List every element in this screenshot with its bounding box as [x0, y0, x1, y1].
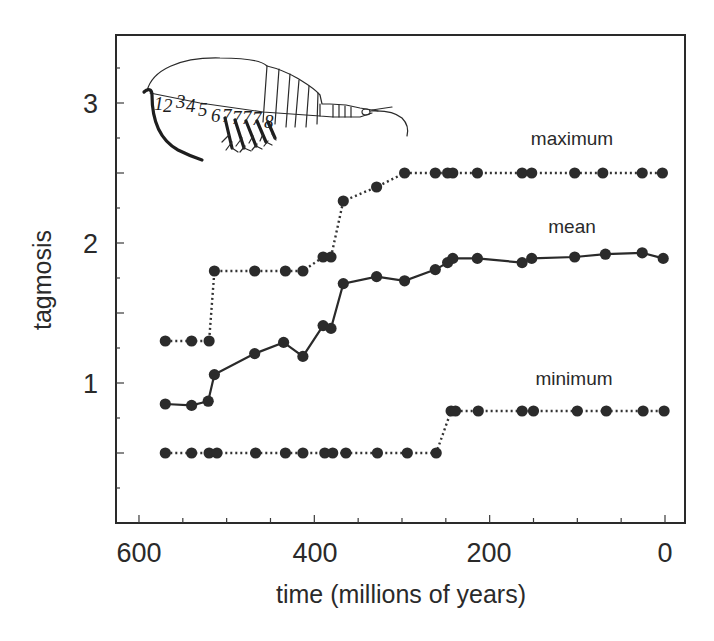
data-point-marker	[473, 405, 484, 416]
x-tick-label-400: 400	[292, 538, 337, 568]
data-point-marker	[658, 253, 669, 264]
data-point-marker	[209, 369, 220, 380]
y-axis-tick-labels: 1 2 3	[83, 89, 98, 399]
data-point-marker	[572, 405, 583, 416]
data-point-marker	[325, 323, 336, 334]
series-minimum	[160, 405, 670, 458]
data-point-marker	[517, 257, 528, 268]
data-point-marker	[637, 247, 648, 258]
data-point-marker	[340, 447, 351, 458]
data-point-marker	[399, 275, 410, 286]
data-point-marker	[372, 447, 383, 458]
data-point-marker	[597, 167, 608, 178]
svg-text:4: 4	[186, 95, 196, 116]
svg-text:5: 5	[198, 99, 208, 120]
data-point-marker	[209, 265, 220, 276]
telson-icon	[362, 109, 370, 115]
data-point-marker	[186, 447, 197, 458]
data-point-marker	[430, 167, 441, 178]
y-axis-title: tagmosis	[28, 230, 56, 330]
series-label-minimum: minimum	[535, 368, 612, 389]
series-layer	[160, 167, 670, 458]
svg-text:3: 3	[175, 91, 186, 112]
data-point-marker	[211, 447, 222, 458]
data-point-marker	[278, 337, 289, 348]
data-point-marker	[600, 249, 611, 260]
data-point-marker	[186, 400, 197, 411]
data-point-marker	[297, 351, 308, 362]
svg-text:2: 2	[163, 95, 173, 116]
y-axis-ticks	[116, 68, 124, 488]
svg-text:6: 6	[211, 105, 221, 126]
x-tick-label-0: 0	[657, 538, 672, 568]
data-point-marker	[638, 405, 649, 416]
data-point-marker	[325, 251, 336, 262]
data-point-marker	[601, 405, 612, 416]
data-point-marker	[569, 251, 580, 262]
data-point-marker	[160, 447, 171, 458]
data-point-marker	[472, 167, 483, 178]
x-axis-title: time (millions of years)	[276, 580, 526, 608]
data-point-marker	[569, 167, 580, 178]
data-point-marker	[430, 264, 441, 275]
data-point-marker	[203, 396, 214, 407]
data-point-marker	[526, 167, 537, 178]
data-point-marker	[280, 447, 291, 458]
data-point-marker	[637, 167, 648, 178]
segment-numbers: 1 2 3 4 5 6 7 7 7 7 8	[154, 91, 274, 132]
data-point-marker	[431, 447, 442, 458]
x-tick-label-200: 200	[466, 538, 511, 568]
data-point-marker	[371, 271, 382, 282]
series-maximum	[160, 167, 668, 346]
crustacean-illustration: 1 2 3 4 5 6 7 7 7 7 8	[144, 58, 408, 160]
data-point-marker	[447, 167, 458, 178]
data-point-marker	[657, 167, 668, 178]
data-point-marker	[297, 447, 308, 458]
data-point-marker	[528, 405, 539, 416]
series-label-maximum: maximum	[531, 128, 613, 149]
series-label-mean: mean	[548, 216, 596, 237]
y-tick-label-3: 3	[83, 89, 98, 119]
data-point-marker	[186, 335, 197, 346]
data-point-marker	[447, 253, 458, 264]
data-point-marker	[204, 335, 215, 346]
data-point-marker	[160, 398, 171, 409]
data-point-marker	[472, 253, 483, 264]
data-point-marker	[338, 278, 349, 289]
series-line-maximum	[165, 173, 662, 341]
data-point-marker	[526, 253, 537, 264]
data-point-marker	[297, 265, 308, 276]
y-tick-label-2: 2	[83, 229, 98, 259]
x-tick-label-600: 600	[116, 538, 161, 568]
data-point-marker	[249, 265, 260, 276]
data-point-marker	[249, 348, 260, 359]
data-point-marker	[399, 167, 410, 178]
data-point-marker	[517, 405, 528, 416]
data-point-marker	[338, 195, 349, 206]
x-axis-tick-labels: 600 400 200 0	[116, 538, 672, 568]
data-point-marker	[280, 265, 291, 276]
tagmosis-chart: 600 400 200 0 1 2 3 time (millions of ye…	[0, 0, 714, 641]
data-point-marker	[450, 405, 461, 416]
data-point-marker	[250, 447, 261, 458]
data-point-marker	[160, 335, 171, 346]
data-point-marker	[371, 181, 382, 192]
series-line-minimum	[165, 411, 664, 453]
y-tick-label-1: 1	[83, 369, 98, 399]
data-point-marker	[327, 447, 338, 458]
data-point-marker	[402, 447, 413, 458]
x-axis-ticks	[139, 515, 665, 523]
data-point-marker	[517, 167, 528, 178]
data-point-marker	[659, 405, 670, 416]
